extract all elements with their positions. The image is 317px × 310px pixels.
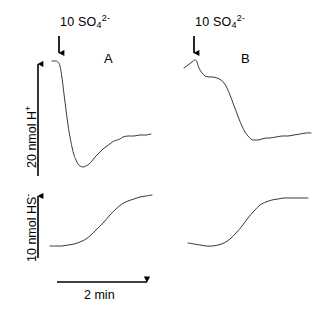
trace-b-proton [184,60,311,140]
trace-a-sulfide [50,195,152,246]
traces-svg [0,0,317,310]
trace-b-sulfide [188,198,308,246]
trace-a-proton [52,61,151,167]
figure-container: 10 SO42- 10 SO42- A B 20 nmol H+ 10 nmol… [0,0,317,310]
